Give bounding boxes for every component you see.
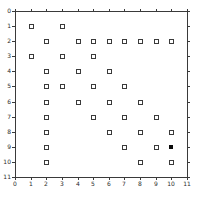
- x-axis-tick-label: 2: [44, 181, 48, 187]
- data-point: [91, 84, 96, 89]
- data-point: [107, 39, 112, 44]
- y-axis-tick-right: [188, 86, 190, 87]
- y-axis-tick-label: 1: [0, 23, 11, 29]
- data-point: [60, 24, 65, 29]
- y-axis-tick-left: [12, 147, 15, 148]
- y-axis-tick-right: [188, 147, 190, 148]
- data-point: [76, 100, 81, 105]
- data-point: [107, 130, 112, 135]
- data-point: [60, 84, 65, 89]
- y-axis-tick-right: [188, 71, 190, 72]
- data-point: [122, 115, 127, 120]
- x-axis-tick-top: [93, 9, 94, 11]
- y-axis-tick-label: 7: [0, 114, 11, 120]
- y-axis-tick-left: [12, 117, 15, 118]
- data-point: [107, 69, 112, 74]
- x-axis-tick-top: [124, 9, 125, 11]
- x-axis-tick-label: 6: [107, 181, 111, 187]
- y-axis-tick-right: [188, 177, 190, 178]
- y-axis-tick-right: [188, 26, 190, 27]
- y-axis-tick-right: [188, 56, 190, 57]
- y-axis-tick-label: 6: [0, 99, 11, 105]
- y-axis-tick-left: [12, 11, 15, 12]
- data-point: [44, 145, 49, 150]
- x-axis-tick-top: [62, 9, 63, 11]
- x-axis-tick-top: [31, 9, 32, 11]
- x-axis-tick-label: 4: [76, 181, 80, 187]
- data-point: [169, 160, 174, 165]
- x-axis-tick-top: [171, 9, 172, 11]
- data-point: [44, 39, 49, 44]
- data-point: [91, 54, 96, 59]
- x-axis-tick-label: 5: [91, 181, 95, 187]
- x-axis-tick-top: [78, 9, 79, 11]
- data-point: [44, 100, 49, 105]
- y-axis-tick-right: [188, 132, 190, 133]
- y-axis-tick-left: [12, 177, 15, 178]
- x-axis-tick-label: 8: [138, 181, 142, 187]
- data-point: [76, 69, 81, 74]
- x-axis-tick-top: [156, 9, 157, 11]
- y-axis-tick-label: 3: [0, 53, 11, 59]
- y-axis-tick-label: 5: [0, 83, 11, 89]
- y-axis-tick-left: [12, 132, 15, 133]
- x-axis-tick-label: 0: [13, 181, 17, 187]
- data-point: [154, 145, 159, 150]
- data-point: [91, 39, 96, 44]
- x-axis-tick-label: 1: [29, 181, 33, 187]
- data-point: [138, 160, 143, 165]
- x-axis-tick-top: [140, 9, 141, 11]
- plot-area: [15, 11, 188, 178]
- data-point: [76, 39, 81, 44]
- data-point: [169, 39, 174, 44]
- data-point: [169, 130, 174, 135]
- y-axis-tick-right: [188, 162, 190, 163]
- data-point: [122, 145, 127, 150]
- data-point: [107, 100, 112, 105]
- data-point: [29, 24, 34, 29]
- x-axis-tick-top: [46, 9, 47, 11]
- data-point: [44, 160, 49, 165]
- y-axis-tick-label: 4: [0, 68, 11, 74]
- y-axis-tick-right: [188, 117, 190, 118]
- data-point: [138, 39, 143, 44]
- y-axis-tick-left: [12, 41, 15, 42]
- data-point: [154, 39, 159, 44]
- y-axis-tick-left: [12, 86, 15, 87]
- data-point: [44, 115, 49, 120]
- y-axis-tick-label: 2: [0, 38, 11, 44]
- data-point: [122, 84, 127, 89]
- y-axis-tick-label: 8: [0, 129, 11, 135]
- y-axis-tick-label: 11: [0, 174, 11, 180]
- x-axis-tick-label: 3: [60, 181, 64, 187]
- data-point: [91, 115, 96, 120]
- x-axis-tick-label: 10: [167, 181, 175, 187]
- data-point: [44, 84, 49, 89]
- y-axis-tick-left: [12, 102, 15, 103]
- x-axis-tick-top: [15, 9, 16, 11]
- y-axis-tick-label: 10: [0, 159, 11, 165]
- data-point: [138, 100, 143, 105]
- data-point: [122, 39, 127, 44]
- data-point: [138, 130, 143, 135]
- y-axis-tick-left: [12, 26, 15, 27]
- data-point: [29, 54, 34, 59]
- data-point: [60, 54, 65, 59]
- y-axis-tick-right: [188, 11, 190, 12]
- x-axis-tick-top: [109, 9, 110, 11]
- x-axis-tick-label: 7: [122, 181, 126, 187]
- x-axis-tick-label: 11: [183, 181, 191, 187]
- data-point: [44, 130, 49, 135]
- y-axis-tick-right: [188, 102, 190, 103]
- y-axis-tick-left: [12, 162, 15, 163]
- y-axis-tick-label: 9: [0, 144, 11, 150]
- scatter-plot-figure: 0123456789101101234567891011: [0, 0, 198, 204]
- y-axis-tick-left: [12, 71, 15, 72]
- y-axis-tick-right: [188, 41, 190, 42]
- data-point-filled: [169, 145, 173, 149]
- data-point: [154, 115, 159, 120]
- y-axis-tick-left: [12, 56, 15, 57]
- data-point: [44, 69, 49, 74]
- x-axis-tick-label: 9: [154, 181, 158, 187]
- y-axis-tick-label: 0: [0, 8, 11, 14]
